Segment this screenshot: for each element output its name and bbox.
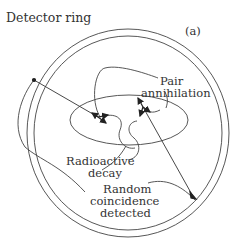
panel-label: (a) — [185, 25, 201, 37]
detector-ring-label: Detector ring — [6, 12, 91, 24]
source-ellipse — [70, 95, 188, 145]
pet-random-coincidence-diagram: Detector ring (a) Pair annihilation Radi… — [0, 0, 236, 244]
pair-annihilation-label-2: annihilation — [141, 87, 211, 99]
random-coincidence-label-3: detected — [100, 207, 151, 219]
radioactive-decay-label-2: decay — [88, 167, 122, 179]
